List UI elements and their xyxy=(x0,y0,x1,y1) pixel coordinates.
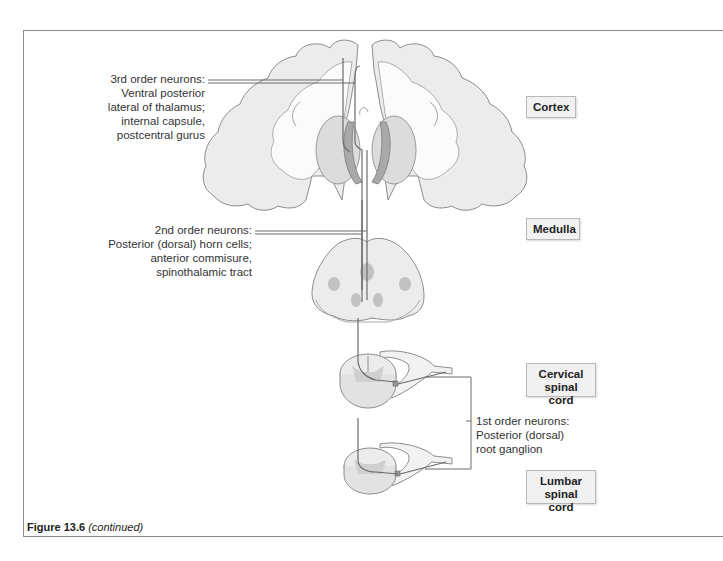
cervical-cord-section xyxy=(340,351,452,408)
figure-note: (continued) xyxy=(88,521,143,533)
second-order-line: spinothalamic tract xyxy=(50,265,252,279)
medulla-section xyxy=(312,238,424,322)
level-box-cortex: Cortex xyxy=(526,96,576,118)
level-box-cervical: Cervical spinal cord xyxy=(526,363,596,397)
first-order-line: 1st order neurons: xyxy=(476,414,616,428)
figure-caption: Figure 13.6 (continued) xyxy=(27,521,143,533)
level-box-lumbar: Lumbar spinal cord xyxy=(526,470,596,504)
second-order-neurons-label: 2nd order neurons: Posterior (dorsal) ho… xyxy=(50,223,252,279)
level-label: spinal cord xyxy=(533,488,589,514)
third-order-neurons-label: 3rd order neurons: Ventral posterior lat… xyxy=(90,72,205,142)
lumbar-cord-section xyxy=(344,443,452,494)
second-order-line: anterior commisure, xyxy=(50,251,252,265)
first-order-neurons-label: 1st order neurons: Posterior (dorsal) ro… xyxy=(476,414,616,456)
first-order-line: Posterior (dorsal) xyxy=(476,428,616,442)
first-order-line: root ganglion xyxy=(476,442,616,456)
brain-coronal-section xyxy=(203,40,527,210)
level-label: Cervical xyxy=(533,368,589,381)
third-order-line: lateral of thalamus; xyxy=(90,100,205,114)
third-order-line: 3rd order neurons: xyxy=(90,72,205,86)
level-box-medulla: Medulla xyxy=(526,218,580,240)
level-label: spinal cord xyxy=(533,381,589,407)
level-label: Medulla xyxy=(533,223,576,235)
level-label: Lumbar xyxy=(533,475,589,488)
level-label: Cortex xyxy=(533,101,569,113)
third-order-line: postcentral gurus xyxy=(90,128,205,142)
second-order-line: Posterior (dorsal) horn cells; xyxy=(50,237,252,251)
third-order-line: internal capsule, xyxy=(90,114,205,128)
thalamus xyxy=(316,116,416,184)
third-order-line: Ventral posterior xyxy=(90,86,205,100)
second-order-line: 2nd order neurons: xyxy=(50,223,252,237)
figure-number: Figure 13.6 xyxy=(27,521,85,533)
